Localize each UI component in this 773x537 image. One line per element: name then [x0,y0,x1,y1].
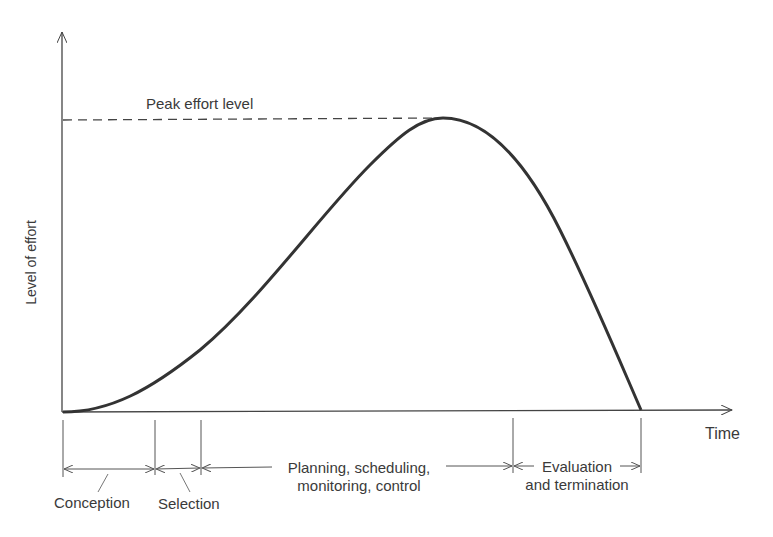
phase-selection-label: Selection [158,495,220,512]
planning-arrow-left [202,467,272,468]
phase-planning-label-2: monitoring, control [272,477,446,494]
phase-planning-label-1: Planning, scheduling, [272,459,446,476]
y-axis-label: Level of effort [23,213,40,313]
selection-leader [180,473,190,492]
phase-conception-label: Conception [54,494,130,511]
effort-curve [63,118,641,412]
x-axis [62,410,732,412]
phase-evaluation-label-2: and termination [515,476,639,493]
effort-diagram [0,0,773,537]
selection-arrow [156,468,200,469]
peak-label: Peak effort level [146,95,253,112]
phase-evaluation-label-1: Evaluation [534,458,620,475]
x-axis-label: Time [705,425,740,442]
peak-dashed-line [63,118,445,120]
conception-leader [98,474,108,492]
